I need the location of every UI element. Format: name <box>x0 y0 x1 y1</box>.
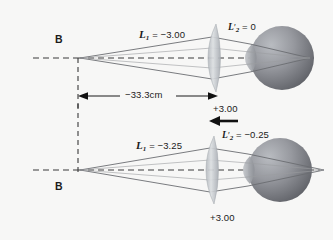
object-distance-label: −33.3cm <box>125 89 162 100</box>
top-incident-vergence-label: L1 L1 = −3.00 = −3.00 <box>139 28 185 42</box>
bottom-incident-vergence-label: L1 = −3.25 <box>136 139 182 153</box>
top-exit-vergence-label: L′2 = 0 <box>228 21 256 34</box>
spectacle-lens-bottom <box>206 136 219 204</box>
top-object-point-label: B <box>55 33 63 45</box>
top-lens-power-label: +3.00 <box>213 103 238 114</box>
dimension-arrowhead-left <box>78 92 88 100</box>
leftward-shift-arrow <box>209 116 238 126</box>
spectacle-lens-top <box>208 24 221 92</box>
shift-arrow-head <box>209 116 220 126</box>
bottom-object-point-label: B <box>55 180 63 192</box>
bottom-exit-vergence-label: L′2 = −0.25 <box>222 129 269 142</box>
eyeball-sphere-bottom <box>248 138 312 202</box>
eyeball-sphere-top <box>250 26 314 90</box>
bottom-lens-power-label: +3.00 <box>210 212 235 223</box>
optics-ray-diagram: B L1 L1 = −3.00 = −3.00 L′2 = 0 −33.3cm … <box>0 0 333 240</box>
dimension-arrowhead-right <box>208 92 218 100</box>
